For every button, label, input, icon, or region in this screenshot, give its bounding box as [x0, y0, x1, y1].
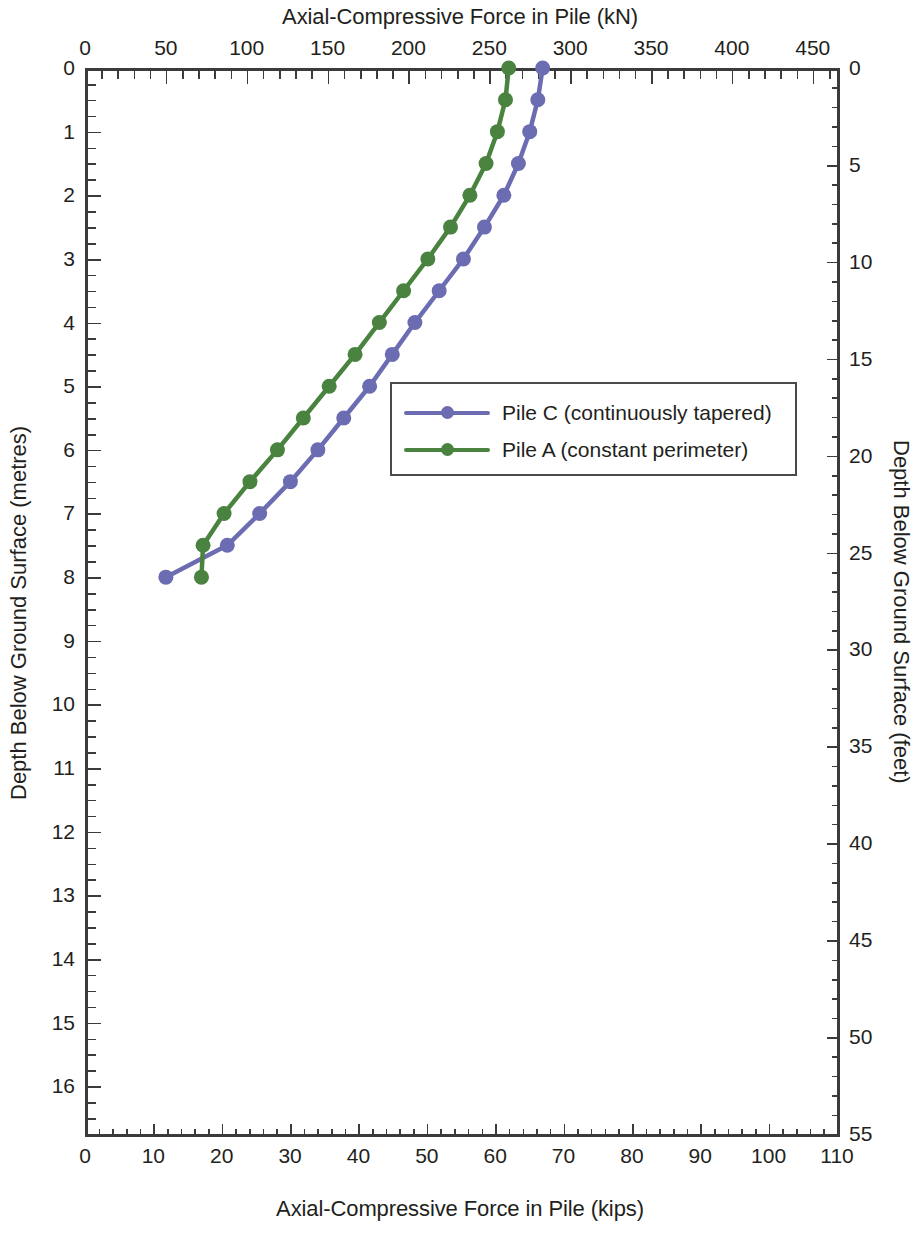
- tick-label-right-50: 50: [849, 1025, 872, 1049]
- series-marker-pile-c-15: [220, 538, 235, 553]
- tick-label-bottom-80: 80: [620, 1144, 643, 1168]
- tick-label-left-12: 12: [52, 820, 75, 844]
- tick-label-top-400: 400: [714, 36, 749, 60]
- tick-label-left-4: 4: [63, 311, 75, 335]
- tick-label-bottom-70: 70: [552, 1144, 575, 1168]
- series-marker-pile-a-9: [348, 347, 363, 362]
- tick-label-right-5: 5: [849, 153, 861, 177]
- chart-figure: Axial-Compressive Force in Pile (kN) Axi…: [0, 0, 920, 1240]
- tick-label-left-13: 13: [52, 883, 75, 907]
- tick-label-left-2: 2: [63, 183, 75, 207]
- series-marker-pile-a-1: [498, 92, 513, 107]
- tick-label-right-15: 15: [849, 347, 872, 371]
- tick-label-right-45: 45: [849, 928, 872, 952]
- tick-label-left-11: 11: [53, 756, 75, 780]
- tick-label-right-30: 30: [849, 637, 872, 661]
- series-marker-pile-a-5: [443, 220, 458, 235]
- legend-label-pile-c: Pile C (continuously tapered): [502, 401, 772, 425]
- tick-label-bottom-90: 90: [689, 1144, 712, 1168]
- tick-label-top-150: 150: [310, 36, 345, 60]
- legend-item-pile-c[interactable]: Pile C (continuously tapered): [392, 394, 795, 431]
- series-marker-pile-c-4: [496, 188, 511, 203]
- series-marker-pile-c-14: [252, 506, 267, 521]
- series-marker-pile-a-4: [462, 188, 477, 203]
- series-marker-pile-c-0: [535, 61, 550, 76]
- tick-label-bottom-0: 0: [79, 1144, 91, 1168]
- tick-label-bottom-40: 40: [347, 1144, 370, 1168]
- series-marker-pile-c-16: [158, 570, 173, 585]
- series-layer: [85, 68, 840, 1137]
- series-marker-pile-c-9: [385, 347, 400, 362]
- plot-area: [85, 68, 840, 1137]
- tick-label-right-55: 55: [849, 1122, 872, 1146]
- top-axis-title: Axial-Compressive Force in Pile (kN): [0, 4, 920, 30]
- legend-item-pile-a[interactable]: Pile A (constant perimeter): [392, 431, 795, 468]
- series-marker-pile-c-11: [336, 411, 351, 426]
- tick-label-left-9: 9: [63, 629, 75, 653]
- tick-label-left-6: 6: [63, 438, 75, 462]
- tick-label-left-5: 5: [63, 374, 75, 398]
- tick-label-left-1: 1: [63, 120, 75, 144]
- series-marker-pile-c-6: [456, 251, 471, 266]
- series-marker-pile-a-12: [270, 442, 285, 457]
- tick-label-bottom-20: 20: [210, 1144, 233, 1168]
- tick-label-bottom-30: 30: [278, 1144, 301, 1168]
- tick-label-left-10: 10: [52, 692, 75, 716]
- tick-label-top-300: 300: [553, 36, 588, 60]
- tick-label-top-350: 350: [633, 36, 668, 60]
- series-marker-pile-c-8: [407, 315, 422, 330]
- tick-label-left-14: 14: [52, 947, 75, 971]
- tick-label-bottom-10: 10: [142, 1144, 165, 1168]
- series-line-pile-c: [166, 68, 543, 577]
- chart-legend: Pile C (continuously tapered) Pile A (co…: [390, 382, 797, 476]
- series-marker-pile-c-3: [511, 156, 526, 171]
- series-line-pile-a: [201, 68, 508, 577]
- tick-label-right-10: 10: [849, 250, 872, 274]
- series-marker-pile-c-1: [530, 92, 545, 107]
- legend-label-pile-a: Pile A (constant perimeter): [502, 438, 748, 462]
- series-marker-pile-c-10: [362, 379, 377, 394]
- tick-label-right-40: 40: [849, 831, 872, 855]
- legend-marker-pile-a: [441, 443, 454, 456]
- legend-marker-pile-c: [441, 406, 454, 419]
- series-marker-pile-a-10: [322, 379, 337, 394]
- series-marker-pile-a-16: [194, 570, 209, 585]
- series-marker-pile-a-7: [396, 283, 411, 298]
- tick-label-top-0: 0: [79, 36, 91, 60]
- series-marker-pile-a-13: [242, 474, 257, 489]
- tick-label-top-450: 450: [795, 36, 830, 60]
- series-marker-pile-a-8: [372, 315, 387, 330]
- series-marker-pile-a-11: [296, 411, 311, 426]
- series-marker-pile-c-7: [432, 283, 447, 298]
- tick-label-bottom-100: 100: [751, 1144, 786, 1168]
- series-marker-pile-c-5: [477, 220, 492, 235]
- left-axis-title: Depth Below Ground Surface (metres): [6, 426, 32, 800]
- tick-label-right-0: 0: [849, 56, 861, 80]
- legend-swatch-pile-a: [404, 440, 490, 460]
- tick-label-top-100: 100: [229, 36, 264, 60]
- tick-label-right-35: 35: [849, 734, 872, 758]
- tick-label-left-0: 0: [63, 56, 75, 80]
- series-marker-pile-a-15: [196, 538, 211, 553]
- right-axis-title: Depth Below Ground Surface (feet): [888, 440, 914, 784]
- series-marker-pile-a-14: [217, 506, 232, 521]
- series-marker-pile-a-6: [420, 251, 435, 266]
- tick-label-left-3: 3: [63, 247, 75, 271]
- tick-label-top-250: 250: [472, 36, 507, 60]
- legend-swatch-pile-c: [404, 403, 490, 423]
- tick-label-left-8: 8: [63, 565, 75, 589]
- tick-label-right-25: 25: [849, 541, 872, 565]
- series-marker-pile-a-0: [501, 61, 516, 76]
- tick-label-left-15: 15: [52, 1011, 75, 1035]
- tick-label-top-200: 200: [391, 36, 426, 60]
- tick-label-left-16: 16: [52, 1074, 75, 1098]
- tick-label-bottom-50: 50: [415, 1144, 438, 1168]
- tick-label-left-7: 7: [63, 501, 75, 525]
- series-marker-pile-c-2: [522, 124, 537, 139]
- tick-label-top-50: 50: [154, 36, 177, 60]
- tick-label-bottom-60: 60: [483, 1144, 506, 1168]
- series-marker-pile-c-13: [283, 474, 298, 489]
- series-marker-pile-a-3: [479, 156, 494, 171]
- bottom-axis-title: Axial-Compressive Force in Pile (kips): [0, 1196, 920, 1222]
- series-marker-pile-a-2: [490, 124, 505, 139]
